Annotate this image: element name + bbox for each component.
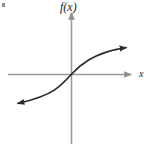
graph-figure: f(x) x xyxy=(0,0,150,144)
function-label: f(x) xyxy=(60,1,77,13)
x-axis-label: x xyxy=(139,69,143,79)
coordinate-plane-svg xyxy=(0,0,150,144)
axes-group xyxy=(8,13,131,144)
